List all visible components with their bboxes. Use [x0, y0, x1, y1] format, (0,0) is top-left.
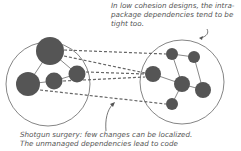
node [69, 66, 86, 83]
node [174, 76, 190, 92]
node [188, 51, 200, 63]
bottom-annotation: Shotgun surgery: few changes can be loca… [20, 130, 192, 148]
bottom-annotation-line-1: Shotgun surgery: few changes can be loca… [20, 130, 192, 139]
top-callout-arrowhead-icon [199, 36, 203, 40]
node [46, 73, 63, 90]
bottom-annotation-line-2: The unmanaged dependencies lead to code [20, 139, 192, 148]
bottom-callout-arrow-icon [106, 104, 113, 131]
top-annotation-line-1: In low cohesion designs, the intra- [111, 1, 234, 10]
node [166, 98, 178, 110]
node [16, 72, 40, 96]
top-annotation-line-2: package dependencies tend to be [111, 10, 234, 19]
node [145, 66, 161, 82]
left-nodes [16, 37, 86, 96]
node [195, 82, 211, 98]
top-annotation-line-3: tight too. [111, 19, 234, 28]
right-nodes [145, 48, 211, 110]
node [36, 37, 64, 65]
top-annotation: In low cohesion designs, the intra- pack… [111, 1, 234, 28]
node [166, 48, 178, 60]
